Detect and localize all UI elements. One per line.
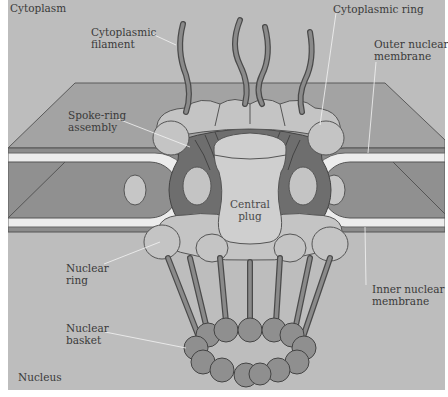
label-cytoplasmic-ring: Cytoplasmic ring: [333, 3, 424, 15]
label-cytoplasm: Cytoplasm: [10, 2, 66, 14]
label-inner-nuclear-membrane: Inner nuclear membrane: [372, 283, 445, 307]
label-outer-nuclear-membrane: Outer nuclear membrane: [374, 38, 448, 62]
label-cytoplasmic-filament: Cytoplasmic filament: [91, 26, 156, 50]
label-nucleus: Nucleus: [18, 371, 62, 383]
central-plug: [214, 133, 286, 244]
label-nuclear-ring: Nuclear ring: [66, 262, 109, 286]
nuclear-pore-diagram: Cytoplasm Nucleus Cytoplasmic filament C…: [8, 0, 445, 390]
label-central-plug: Central plug: [230, 198, 270, 222]
label-nuclear-basket: Nuclear basket: [66, 322, 109, 346]
label-spoke-ring-assembly: Spoke-ring assembly: [68, 109, 126, 133]
